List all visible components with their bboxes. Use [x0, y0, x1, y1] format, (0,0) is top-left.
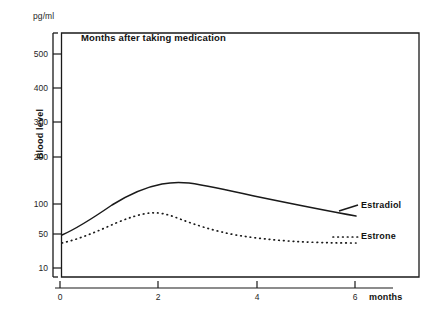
y-tick-label-200: 200 [24, 152, 48, 162]
x-tick-label-0: 0 [50, 292, 70, 302]
y-tick-label-400: 400 [24, 83, 48, 93]
y-tick-label-10: 10 [24, 263, 48, 273]
y-tick-label-100: 100 [24, 199, 48, 209]
chart-title: Months after taking medication [81, 32, 226, 43]
x-tick-label-4: 4 [247, 292, 267, 302]
y-axis [53, 33, 58, 277]
y-tick-label-500: 500 [24, 49, 48, 59]
series-label-estradiol: Estradiol [361, 200, 401, 210]
y-tick-label-300: 300 [24, 117, 48, 127]
chart-figure: pg/ml Blood level Months after taking me… [0, 0, 424, 313]
series-line-estrone [62, 213, 356, 243]
series-label-estrone: Estrone [361, 231, 396, 241]
y-tick-label-50: 50 [24, 229, 48, 239]
x-tick-label-2: 2 [148, 292, 168, 302]
y-axis-unit-label: pg/ml [33, 11, 54, 21]
legend-leader-estradiol [339, 205, 358, 211]
series-line-estradiol [62, 182, 356, 235]
x-tick-label-6: 6 [345, 292, 365, 302]
y-axis-ticks [53, 54, 61, 268]
x-axis-title: months [369, 292, 402, 302]
x-axis [55, 281, 393, 288]
chart-plot-area [0, 0, 424, 313]
